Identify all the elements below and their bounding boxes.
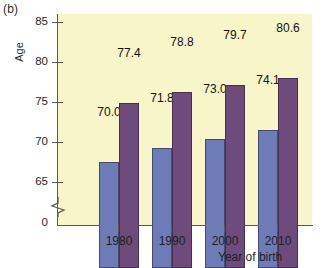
- y-tick-label: 85: [14, 15, 48, 27]
- y-tick-label: 75: [14, 95, 48, 107]
- y-tick-label: 80: [14, 55, 48, 67]
- axis-break-icon: [50, 197, 68, 217]
- x-tick-label: 1980: [92, 234, 146, 248]
- bar-male-2000: [205, 139, 225, 268]
- y-tick-label: 65: [14, 175, 48, 187]
- bar-male-1990: [152, 148, 172, 268]
- y-tick-mark: [52, 62, 63, 63]
- x-axis-title: Year of birth: [218, 250, 282, 264]
- x-tick-mark: [171, 225, 172, 232]
- bar-male-1980: [99, 162, 119, 268]
- bar-value-female-1980: 77.4: [108, 46, 150, 60]
- y-tick-label: 70: [14, 135, 48, 147]
- y-tick-mark: [52, 22, 63, 23]
- bar-value-female-2010: 80.6: [267, 21, 309, 35]
- bar-value-female-2000: 79.7: [214, 28, 256, 42]
- x-tick-mark: [118, 225, 119, 232]
- panel-letter-label: (b): [3, 2, 18, 16]
- chart-figure: (b) Age 85 80 75 70 65 0 70.0 77.4 1980 …: [0, 0, 336, 268]
- y-tick-mark: [52, 182, 63, 183]
- y-tick-mark: [52, 102, 63, 103]
- y-tick-mark: [52, 142, 63, 143]
- x-tick-label: 2010: [251, 234, 305, 248]
- x-tick-mark: [224, 225, 225, 232]
- x-tick-label: 1990: [145, 234, 199, 248]
- y-axis-zero-label: 0: [14, 216, 48, 228]
- bar-value-female-1990: 78.8: [161, 35, 203, 49]
- y-axis-line: [57, 14, 58, 225]
- x-tick-label: 2000: [198, 234, 252, 248]
- x-tick-mark: [277, 225, 278, 232]
